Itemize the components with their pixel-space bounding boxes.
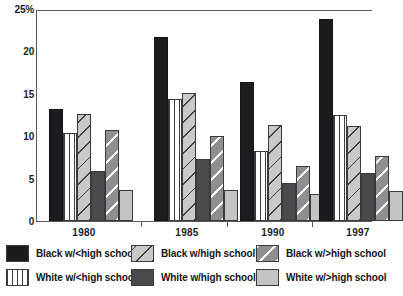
y-axis-tick-label: 10 [2,132,34,142]
legend-swatch-white-gt-hs [256,269,279,286]
x-axis-label-1990: 1990 [243,227,303,238]
bar-1997-white-gt-hs [389,191,403,221]
x-axis-label-1997: 1997 [328,227,388,238]
legend-label: White w/<high school [36,272,137,283]
x-axis-label-1980: 1980 [54,227,114,238]
bar-1980-white-lt-hs [63,133,77,221]
bar-1980-white-hs [91,171,105,221]
bar-1980-black-gt-hs [105,130,119,221]
bar-1985-black-gt-hs [210,136,224,221]
legend-item-white-gt-hs: White w/>high school [256,267,387,287]
legend-swatch-black-hs [131,245,154,262]
legend-swatch-black-gt-hs [256,245,279,262]
bar-1990-black-hs [268,125,282,221]
bar-1980-white-gt-hs [119,190,133,221]
bar-1997-black-gt-hs [375,156,389,221]
bar-1997-white-lt-hs [333,115,347,221]
bar-1990-black-lt-hs [240,82,254,221]
x-axis-label-1985: 1985 [157,227,217,238]
bar-1997-black-hs [347,126,361,221]
bar-1997-white-hs [361,173,375,221]
bar-1997-black-lt-hs [319,19,333,221]
bar-1985-white-hs [196,159,210,221]
bar-1990-white-hs [282,183,296,221]
plot-area [36,10,372,222]
y-axis-tick-label: 5 [2,175,34,185]
legend-label: Black w/high school [161,248,255,259]
y-axis-tick-label: 20 [2,47,34,57]
legend-item-black-lt-hs: Black w/<high school [6,243,136,263]
bar-1990-white-lt-hs [254,151,268,221]
legend-swatch-black-lt-hs [6,245,29,262]
bar-chart: 25% 20 15 10 5 0 [0,0,377,240]
legend-swatch-white-hs [131,269,154,286]
x-axis-tick-mark [312,222,313,227]
legend-item-white-hs: White w/high school [131,267,256,287]
legend-label: White w/high school [161,272,256,283]
bar-1980-black-hs [77,114,91,221]
legend-row: White w/<high school White w/high school… [0,267,377,289]
x-axis-tick-mark [227,222,228,227]
legend-item-black-hs: Black w/high school [131,243,255,263]
bar-1985-white-lt-hs [168,99,182,221]
y-axis-tick-label: 15 [2,90,34,100]
bar-1980-black-lt-hs [49,109,63,221]
y-axis-tick-label: 25% [2,5,34,15]
x-axis-tick-mark [141,222,142,227]
legend-item-black-gt-hs: Black w/>high school [256,243,386,263]
legend-label: Black w/<high school [36,248,136,259]
legend-label: White w/>high school [286,272,387,283]
chart-legend: Black w/<high school Black w/high school… [0,243,377,296]
legend-row: Black w/<high school Black w/high school… [0,243,377,265]
legend-swatch-white-lt-hs [6,269,29,286]
bar-1990-black-gt-hs [296,166,310,221]
bar-1985-black-hs [182,93,196,221]
y-axis-tick-label: 0 [2,217,34,227]
bar-1985-black-lt-hs [154,37,168,221]
legend-label: Black w/>high school [286,248,386,259]
legend-item-white-lt-hs: White w/<high school [6,267,137,287]
bar-1985-white-gt-hs [224,190,238,221]
